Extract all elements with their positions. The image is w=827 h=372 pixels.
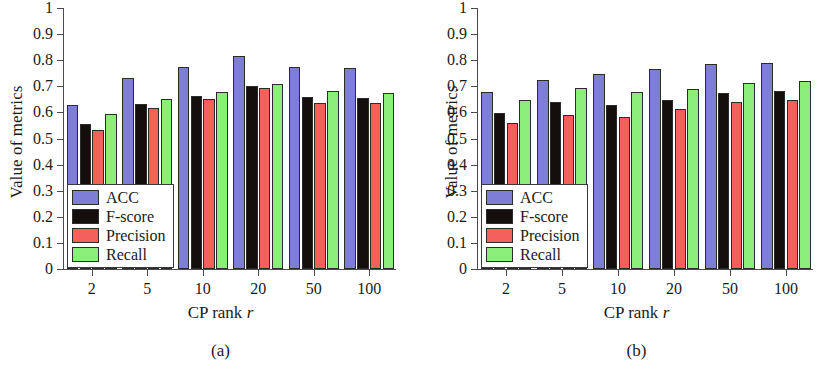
legend-item-b-precision[interactable]: Precision: [486, 226, 580, 245]
y-tick-b-0: [471, 269, 478, 270]
y-tick-b-1: [471, 243, 478, 244]
x-tick-label-a-3: 20: [250, 281, 266, 297]
bar-a-20-precision: [259, 88, 271, 269]
legend-item-a-f-score[interactable]: F-score: [72, 207, 166, 226]
y-tick-b-7: [471, 86, 478, 87]
x-axis-title-prefix-a: CP rank: [188, 303, 247, 322]
legend-swatch-fscore-icon: [486, 209, 513, 224]
y-tick-a-0: [57, 269, 64, 270]
y-tick-b-4: [471, 165, 478, 166]
x-tick-label-a-1: 5: [143, 281, 151, 297]
legend-item-b-acc[interactable]: ACC: [486, 188, 580, 207]
legend-label-a-2: Precision: [106, 228, 166, 244]
legend-item-b-f-score[interactable]: F-score: [486, 207, 580, 226]
legend-swatch-precision-icon: [72, 228, 99, 243]
y-tick-label-b-7: 0.7: [447, 78, 467, 94]
bar-a-50-f-score: [302, 97, 314, 269]
bar-b-20-f-score: [662, 100, 674, 269]
bar-a-100-acc: [344, 68, 356, 269]
x-axis-title-a: CP rank r: [14, 303, 427, 323]
legend-swatch-acc-icon: [486, 190, 513, 205]
legend-label-b-1: F-score: [520, 209, 568, 225]
x-tick-b-0: [506, 269, 507, 276]
y-tick-a-4: [57, 165, 64, 166]
y-tick-a-8: [57, 60, 64, 61]
y-tick-label-a-3: 0.3: [33, 183, 53, 199]
legend-b: ACCF-scorePrecisionRecall: [481, 184, 588, 268]
bar-b-10-acc: [593, 74, 605, 269]
y-tick-label-b-2: 0.2: [447, 209, 467, 225]
legend-item-b-recall[interactable]: Recall: [486, 245, 580, 264]
bar-a-10-recall: [216, 92, 228, 269]
legend-label-a-1: F-score: [106, 209, 154, 225]
y-axis-title-a: Value of metrics: [7, 52, 27, 232]
y-tick-b-9: [471, 34, 478, 35]
y-tick-a-2: [57, 217, 64, 218]
bar-a-10-precision: [203, 99, 215, 269]
bar-b-100-acc: [761, 63, 773, 269]
bar-a-50-recall: [327, 91, 339, 269]
x-tick-b-4: [730, 269, 731, 276]
legend-item-a-acc[interactable]: ACC: [72, 188, 166, 207]
bar-b-50-acc: [705, 64, 717, 269]
y-tick-b-8: [471, 60, 478, 61]
y-tick-b-3: [471, 191, 478, 192]
y-tick-label-a-9: 0.9: [33, 26, 53, 42]
bar-a-100-precision: [370, 103, 382, 269]
x-tick-label-b-2: 10: [610, 281, 626, 297]
x-tick-a-0: [92, 269, 93, 276]
x-tick-a-4: [314, 269, 315, 276]
legend-label-a-3: Recall: [106, 247, 147, 263]
x-tick-b-1: [562, 269, 563, 276]
bar-b-10-recall: [631, 92, 643, 269]
y-tick-label-b-5: 0.5: [447, 131, 467, 147]
x-tick-b-3: [674, 269, 675, 276]
bar-b-100-precision: [787, 100, 799, 269]
x-axis-title-symbol-a: r: [247, 303, 254, 322]
legend-item-a-recall[interactable]: Recall: [72, 245, 166, 264]
legend-label-b-2: Precision: [520, 228, 580, 244]
y-tick-a-6: [57, 112, 64, 113]
legend-swatch-fscore-icon: [72, 209, 99, 224]
y-tick-label-a-7: 0.7: [33, 78, 53, 94]
y-tick-label-a-0: 0: [45, 261, 53, 277]
x-tick-b-2: [618, 269, 619, 276]
y-tick-label-b-8: 0.8: [447, 52, 467, 68]
bar-a-20-acc: [233, 56, 245, 269]
legend-swatch-recall-icon: [72, 247, 99, 262]
y-tick-label-a-10: 1: [45, 0, 53, 16]
y-tick-label-a-8: 0.8: [33, 52, 53, 68]
y-tick-label-a-4: 0.4: [33, 157, 53, 173]
y-tick-label-b-4: 0.4: [447, 157, 467, 173]
bar-a-10-f-score: [191, 96, 203, 269]
plot-area-b: 00.10.20.30.40.50.60.70.80.9125102050100…: [477, 8, 813, 270]
panel-caption-a: (a): [14, 341, 427, 361]
bar-b-10-precision: [619, 117, 631, 269]
bar-a-100-f-score: [357, 98, 369, 269]
bar-b-10-f-score: [606, 105, 618, 269]
bar-a-10-acc: [178, 67, 190, 269]
panel-caption-b: (b): [430, 341, 827, 361]
x-tick-label-b-3: 20: [666, 281, 682, 297]
legend-item-a-precision[interactable]: Precision: [72, 226, 166, 245]
bar-b-50-f-score: [718, 93, 730, 269]
legend-a: ACCF-scorePrecisionRecall: [67, 184, 174, 268]
y-tick-a-5: [57, 139, 64, 140]
x-tick-label-a-5: 100: [357, 281, 381, 297]
legend-swatch-acc-icon: [72, 190, 99, 205]
legend-label-b-0: ACC: [520, 190, 553, 206]
bar-a-50-precision: [314, 103, 326, 269]
x-axis-title-symbol-b: r: [663, 303, 670, 322]
y-tick-a-10: [57, 8, 64, 9]
legend-swatch-recall-icon: [486, 247, 513, 262]
bar-a-50-acc: [289, 67, 301, 269]
bar-b-20-acc: [649, 69, 661, 269]
y-tick-label-b-3: 0.3: [447, 183, 467, 199]
x-tick-label-b-5: 100: [774, 281, 798, 297]
figure-bar-charts: Value of metrics 00.10.20.30.40.50.60.70…: [0, 0, 827, 372]
bar-b-20-recall: [687, 89, 699, 269]
x-axis-title-prefix-b: CP rank: [604, 303, 663, 322]
x-axis-title-b: CP rank r: [430, 303, 827, 323]
y-tick-a-3: [57, 191, 64, 192]
bar-b-50-precision: [731, 102, 743, 269]
